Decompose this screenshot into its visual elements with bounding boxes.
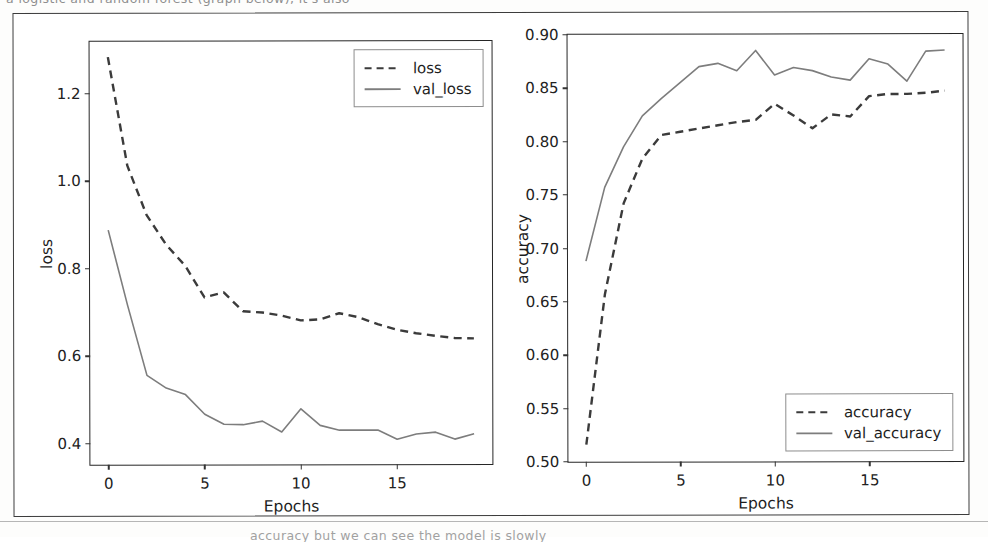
page-text-below-figure: accuracy but we can see the model is slo… xyxy=(250,528,970,542)
legend-label-loss: loss xyxy=(413,59,442,77)
legend-label-val-loss: val_loss xyxy=(413,80,472,98)
y-tick-label-accuracy: 0.70 xyxy=(526,239,568,257)
page-rule xyxy=(0,521,988,522)
x-tick-mark-accuracy xyxy=(680,462,681,467)
dashed-line-swatch-icon xyxy=(364,62,402,74)
x-tick-mark-loss xyxy=(108,465,109,470)
x-tick-label-loss: 0 xyxy=(104,475,114,493)
x-tick-label-accuracy: 5 xyxy=(676,472,686,490)
y-tick-mark-loss xyxy=(85,93,90,94)
y-tick-label-accuracy: 0.65 xyxy=(526,293,568,311)
series-line-val_accuracy xyxy=(586,50,946,261)
y-tick-mark-accuracy xyxy=(563,88,568,89)
x-tick-mark-accuracy xyxy=(775,461,776,466)
y-tick-mark-accuracy xyxy=(563,34,568,35)
solid-line-swatch-icon xyxy=(364,83,402,95)
y-tick-label-accuracy: 0.55 xyxy=(526,399,568,417)
axes-loss: loss Epochs loss xyxy=(89,40,494,466)
y-tick-label-accuracy: 0.75 xyxy=(525,186,567,204)
legend-label-val-accuracy: val_accuracy xyxy=(844,424,941,442)
legend-accuracy: accuracy val_accuracy xyxy=(785,393,954,451)
y-axis-label-loss: loss xyxy=(38,238,56,268)
legend-entry-accuracy: accuracy xyxy=(795,401,941,422)
x-axis-label-loss: Epochs xyxy=(264,497,320,515)
x-tick-label-loss: 15 xyxy=(388,474,407,492)
y-tick-label-accuracy: 0.90 xyxy=(525,26,567,44)
x-tick-label-loss: 10 xyxy=(292,474,311,492)
y-tick-label-accuracy: 0.60 xyxy=(526,346,568,364)
y-tick-mark-accuracy xyxy=(563,301,568,302)
legend-loss: loss val_loss xyxy=(354,49,484,107)
x-tick-mark-loss xyxy=(397,464,398,469)
y-tick-label-accuracy: 0.50 xyxy=(526,453,568,471)
y-tick-mark-accuracy xyxy=(563,461,568,462)
legend-label-accuracy: accuracy xyxy=(844,403,912,421)
series-line-accuracy xyxy=(586,91,946,445)
y-tick-mark-loss xyxy=(85,443,90,444)
legend-entry-val-loss: val_loss xyxy=(364,78,472,99)
y-tick-mark-accuracy xyxy=(563,141,568,142)
x-tick-label-accuracy: 0 xyxy=(582,472,592,490)
y-tick-mark-accuracy xyxy=(563,248,568,249)
y-tick-mark-accuracy xyxy=(563,408,568,409)
page-text-above-figure: a logistic and random forest (graph belo… xyxy=(6,0,566,7)
x-tick-mark-accuracy xyxy=(586,462,587,467)
x-tick-mark-accuracy xyxy=(869,461,870,466)
x-axis-label-accuracy: Epochs xyxy=(738,494,794,512)
subplot-loss: loss Epochs loss xyxy=(13,13,514,518)
y-tick-label-accuracy: 0.85 xyxy=(525,79,567,97)
x-tick-label-loss: 5 xyxy=(200,475,210,493)
x-tick-mark-loss xyxy=(204,465,205,470)
x-tick-label-accuracy: 15 xyxy=(860,471,879,489)
solid-line-swatch-icon xyxy=(795,427,833,439)
y-tick-mark-loss xyxy=(85,356,90,357)
y-tick-mark-accuracy xyxy=(563,354,568,355)
x-tick-label-accuracy: 10 xyxy=(766,471,785,489)
subplot-accuracy: accuracy Epochs accuracy xyxy=(513,12,970,517)
y-tick-label-accuracy: 0.80 xyxy=(525,133,567,151)
y-tick-mark-loss xyxy=(85,180,90,181)
y-tick-mark-loss xyxy=(85,268,90,269)
x-tick-mark-loss xyxy=(300,464,301,469)
legend-entry-val-accuracy: val_accuracy xyxy=(795,422,941,443)
y-tick-mark-accuracy xyxy=(563,194,568,195)
axes-accuracy: accuracy Epochs accuracy xyxy=(567,33,965,463)
dashed-line-swatch-icon xyxy=(795,406,833,418)
legend-entry-loss: loss xyxy=(364,57,472,78)
figure-frame: loss Epochs loss xyxy=(12,11,969,517)
